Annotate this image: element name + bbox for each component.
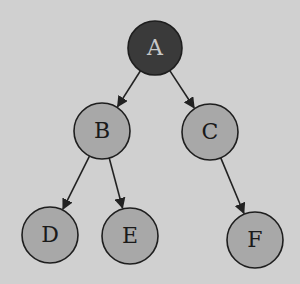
edge-b-e [109, 158, 122, 208]
node-label: A [146, 35, 164, 60]
edge-b-d [63, 156, 90, 209]
node-label: C [202, 119, 219, 144]
edge-a-b [118, 71, 141, 107]
nodes-layer: ABCDEF [22, 21, 283, 268]
node-b: B [74, 103, 130, 159]
node-f: F [227, 212, 283, 268]
node-label: B [94, 118, 110, 143]
node-label: F [247, 227, 262, 252]
node-a: A [128, 21, 182, 75]
node-d: D [22, 207, 78, 263]
node-label: D [41, 222, 59, 247]
tree-diagram-canvas: ABCDEF [0, 0, 300, 284]
node-label: E [122, 223, 138, 248]
tree-diagram: ABCDEF [0, 0, 300, 284]
node-e: E [102, 208, 158, 264]
node-c: C [182, 104, 238, 160]
edge-c-f [221, 158, 244, 213]
edge-a-c [170, 71, 194, 108]
